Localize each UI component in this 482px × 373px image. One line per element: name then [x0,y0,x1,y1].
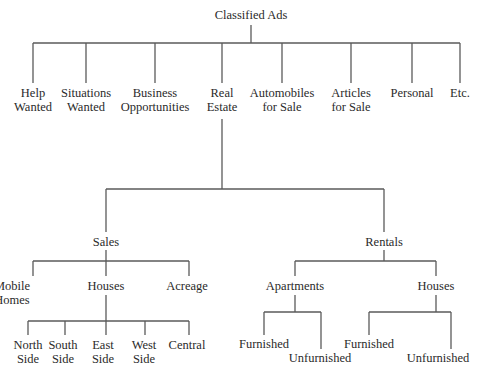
node-label-line: Situations [61,86,111,100]
node-articles-for-sale: Articlesfor Sale [331,86,371,114]
node-label-line: East [92,338,114,352]
node-label-line: Central [169,338,206,352]
node-real-estate: RealEstate [207,86,238,114]
node-label-line: Furnished [344,337,395,351]
node-automobiles-for-sale: Automobilesfor Sale [250,86,315,114]
node-west-side: WestSide [132,338,157,366]
node-label-line: Help [21,86,45,100]
node-label-line: Rentals [365,235,403,249]
node-label-line: West [132,338,157,352]
node-business-opportunities: BusinessOpportunities [121,86,190,114]
node-label-line: Personal [390,86,434,100]
node-label-line: Opportunities [121,100,190,114]
node-label-line: Side [133,352,156,366]
node-acreage: Acreage [166,279,208,293]
node-label-line: North [13,338,43,352]
node-label-line: for Sale [331,100,371,114]
node-personal: Personal [390,86,434,100]
node-label-line: Articles [331,86,371,100]
node-label-line: Classified Ads [215,8,288,22]
node-north-side: NorthSide [13,338,43,366]
node-mobile-homes: MobileHomes [0,279,31,307]
node-central: Central [169,338,206,352]
node-etc: Etc. [450,86,470,100]
node-label-line: South [48,338,78,352]
node-help-wanted: HelpWanted [14,86,53,114]
node-sales: Sales [93,235,120,249]
node-apt-furnished: Furnished [239,337,290,351]
node-rentals: Rentals [365,235,403,249]
node-house-unfurnished: Unfurnished [407,351,470,365]
node-label-line: Wanted [14,100,53,114]
node-label-line: Side [92,352,115,366]
tree-edges [28,25,460,349]
node-apt-unfurnished: Unfurnished [289,351,352,365]
node-apartments: Apartments [266,279,324,293]
node-root: Classified Ads [215,8,288,22]
node-label-line: Business [133,86,178,100]
node-label-line: Sales [93,235,120,249]
node-label-line: Side [52,352,75,366]
node-situations-wanted: SituationsWanted [61,86,111,114]
node-east-side: EastSide [92,338,115,366]
node-label-line: Automobiles [250,86,315,100]
node-label-line: for Sale [262,100,302,114]
classified-ads-tree-diagram: Classified AdsHelpWantedSituationsWanted… [0,0,482,373]
node-house-furnished: Furnished [344,337,395,351]
node-rental-houses: Houses [418,279,455,293]
node-label-line: Apartments [266,279,324,293]
node-label-line: Houses [88,279,125,293]
node-label-line: Unfurnished [407,351,470,365]
node-label-line: Etc. [450,86,470,100]
node-label-line: Homes [0,293,30,307]
node-sales-houses: Houses [88,279,125,293]
node-label-line: Unfurnished [289,351,352,365]
node-south-side: SouthSide [48,338,78,366]
node-label-line: Estate [207,100,238,114]
node-label-line: Acreage [166,279,208,293]
node-label-line: Houses [418,279,455,293]
node-label-line: Real [211,86,234,100]
node-label-line: Mobile [0,279,31,293]
node-label-line: Furnished [239,337,290,351]
node-label-line: Wanted [67,100,106,114]
node-label-line: Side [17,352,40,366]
